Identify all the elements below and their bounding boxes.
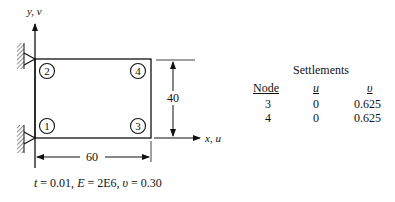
material-properties: t = 0.01, E = 2E6, υ = 0.30 <box>34 176 162 190</box>
svg-text:40: 40 <box>167 91 179 105</box>
header-v: υ <box>367 81 373 96</box>
svg-text:4: 4 <box>135 65 141 77</box>
node-4: 4 <box>131 64 146 79</box>
row-v: 0.625 <box>354 111 381 126</box>
row-node: 3 <box>265 97 271 112</box>
svg-text:60: 60 <box>86 150 98 164</box>
svg-text:3: 3 <box>135 120 141 132</box>
height-dimension: 40 <box>156 60 195 136</box>
node-2: 2 <box>40 64 55 79</box>
plate-diagram: y, v x, u 1 2 3 4 40 <box>0 0 395 202</box>
settlements-title: Settlements <box>293 63 349 78</box>
header-u: u <box>313 81 319 96</box>
plate-element <box>35 59 151 138</box>
svg-text:2: 2 <box>44 65 50 77</box>
width-dimension: 60 <box>37 141 151 164</box>
row-u: 0 <box>313 97 319 112</box>
row-node: 4 <box>265 111 271 126</box>
row-v: 0.625 <box>354 97 381 112</box>
header-node: Node <box>253 81 279 96</box>
pin-support-bottom <box>17 125 35 153</box>
row-u: 0 <box>313 111 319 126</box>
y-axis-label: y, v <box>26 5 42 17</box>
pin-support-top <box>17 43 35 69</box>
node-3: 3 <box>131 119 146 134</box>
svg-text:1: 1 <box>44 120 50 132</box>
x-axis-label: x, u <box>204 132 221 144</box>
node-1: 1 <box>40 119 55 134</box>
